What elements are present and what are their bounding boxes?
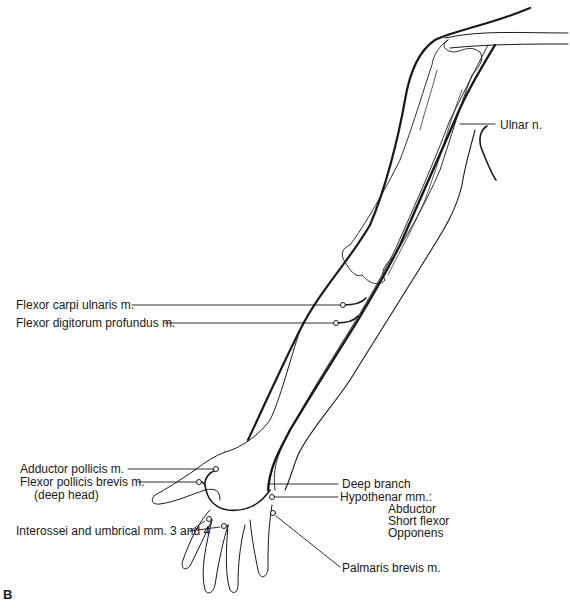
shoulder-line [445,32,568,38]
fcu-branch [343,298,366,305]
label-hypothenar-opponens: Opponens [388,526,443,540]
adductor-point [214,467,219,472]
ulnar-nerve [268,45,495,490]
ulnar-nerve-branch [480,126,496,180]
fdp-point [334,321,339,326]
hand-fingers [182,505,272,593]
label-flexor-carpi-ulnaris: Flexor carpi ulnaris m. [16,298,134,312]
arm-outline-lateral [248,8,530,440]
label-adductor-pollicis: Adductor pollicis m. [20,462,124,476]
humerus [342,40,481,284]
label-deep-branch: Deep branch [342,477,411,491]
hypothenar-point [270,495,275,500]
interossei-point-2 [222,524,227,529]
label-interossei: Interossei and umbrical mm. 3 and 4 [16,524,210,538]
interossei-point-1 [207,517,212,522]
label-flexor-pollicis-brevis: Flexor pollicis brevis m. [20,475,145,489]
median-line [274,45,488,490]
leader-palmaris [276,516,340,567]
label-ulnar-nerve: Ulnar n. [500,118,542,132]
fcu-point [341,303,346,308]
fpb-point [197,480,202,485]
label-palmaris-brevis: Palmaris brevis m. [342,561,441,575]
panel-letter: B [3,587,12,602]
label-deep-head: (deep head) [34,488,99,502]
arm-outline-medial [285,130,475,490]
palmaris-point [271,511,276,516]
label-flexor-digitorum-profundus: Flexor digitorum profundus m. [16,316,175,330]
hand-thumb [152,452,225,504]
humerus-inner [420,70,437,130]
shoulder-line-2 [450,44,568,48]
